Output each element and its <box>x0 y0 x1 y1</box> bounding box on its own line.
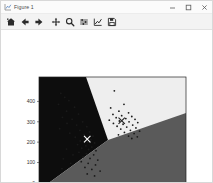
data-point <box>77 144 79 146</box>
window-controls <box>164 1 212 14</box>
data-point <box>86 173 88 175</box>
data-point <box>89 158 91 160</box>
data-point <box>133 133 135 135</box>
data-point <box>88 149 90 151</box>
data-point <box>71 118 73 120</box>
forward-button[interactable] <box>33 15 44 28</box>
move-icon <box>51 17 61 27</box>
data-point <box>66 110 68 112</box>
data-point <box>68 100 70 102</box>
data-point <box>66 123 68 125</box>
data-point <box>80 161 82 163</box>
y-tick-label: 0 <box>32 180 35 182</box>
data-point <box>128 135 130 137</box>
data-point <box>118 134 120 136</box>
data-point <box>91 146 93 148</box>
back-button[interactable] <box>19 15 30 28</box>
data-point <box>121 115 123 117</box>
data-point <box>113 90 115 92</box>
customize-button[interactable] <box>92 15 103 28</box>
magnifier-icon <box>65 17 75 27</box>
data-point <box>90 139 92 141</box>
data-point <box>120 128 122 130</box>
data-point <box>59 128 61 130</box>
axes-area: 0100200300400500 0100200300400 <box>27 77 186 182</box>
plot-svg: 0100200300400500 0100200300400 <box>1 30 212 182</box>
arrow-right-icon <box>34 17 44 27</box>
floppy-icon <box>107 17 117 27</box>
data-point <box>64 96 66 98</box>
data-point <box>78 151 80 153</box>
data-point <box>118 110 120 112</box>
zoom-button[interactable] <box>64 15 75 28</box>
figure-canvas[interactable]: 0100200300400500 0100200300400 <box>1 30 212 182</box>
data-point <box>124 131 126 133</box>
chart-icon <box>4 3 12 11</box>
data-point <box>76 124 78 126</box>
data-point <box>79 140 81 142</box>
data-point <box>130 129 132 131</box>
y-tick-label: 300 <box>27 119 36 125</box>
maximize-button[interactable] <box>180 1 196 14</box>
data-point <box>131 138 133 140</box>
data-point <box>94 142 96 144</box>
data-point <box>91 169 93 171</box>
data-point <box>113 123 115 125</box>
data-point <box>74 136 76 138</box>
axes-edit-icon <box>93 17 103 27</box>
figure-window: Figure 1 <box>0 0 213 183</box>
data-point <box>87 141 89 143</box>
figure-canvas-area[interactable]: 0100200300400500 0100200300400 <box>1 30 212 182</box>
data-point <box>85 153 87 155</box>
data-point <box>132 124 134 126</box>
navigation-toolbar <box>1 14 212 30</box>
data-point <box>99 170 101 172</box>
data-point <box>83 134 85 136</box>
save-button[interactable] <box>106 15 117 28</box>
subplots-button[interactable] <box>78 15 89 28</box>
home-icon <box>6 17 16 27</box>
data-point <box>123 103 125 105</box>
home-button[interactable] <box>5 15 16 28</box>
data-point <box>95 164 97 166</box>
data-point <box>108 119 110 121</box>
data-point <box>79 129 81 131</box>
data-point <box>70 162 72 164</box>
data-point <box>72 154 74 156</box>
data-point <box>84 167 86 169</box>
data-point <box>62 116 64 118</box>
pan-button[interactable] <box>50 15 61 28</box>
data-point <box>66 148 68 150</box>
data-point <box>118 120 120 122</box>
data-point <box>128 112 130 114</box>
close-button[interactable] <box>196 1 212 14</box>
data-point <box>82 121 84 123</box>
data-point <box>139 130 141 132</box>
data-point <box>86 126 88 128</box>
data-point <box>58 103 60 105</box>
data-point <box>126 126 128 128</box>
window-title: Figure 1 <box>14 1 34 14</box>
title-bar: Figure 1 <box>1 1 212 14</box>
data-point <box>78 113 80 115</box>
data-point <box>62 158 64 160</box>
data-point <box>137 122 139 124</box>
data-point <box>115 117 117 119</box>
arrow-left-icon <box>20 17 30 27</box>
data-point <box>89 131 91 133</box>
data-point <box>110 107 112 109</box>
y-tick-label: 200 <box>27 139 36 145</box>
data-point <box>82 156 84 158</box>
sliders-icon <box>79 17 89 27</box>
data-point <box>85 145 87 147</box>
minimize-button[interactable] <box>164 1 180 14</box>
data-point <box>93 154 95 156</box>
y-tick-label: 400 <box>27 98 36 104</box>
data-point <box>69 132 71 134</box>
data-point <box>97 159 99 161</box>
data-point <box>135 127 137 129</box>
data-point <box>92 135 94 137</box>
data-point <box>112 114 114 116</box>
data-point <box>122 123 124 125</box>
data-point <box>134 118 136 120</box>
